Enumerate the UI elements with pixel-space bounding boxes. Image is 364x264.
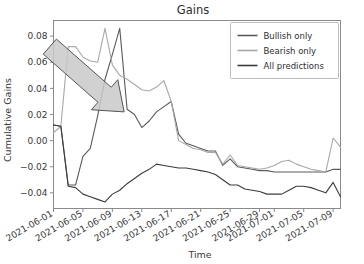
y-tick-label: −0.02 xyxy=(20,162,48,172)
y-tick-label: 0.02 xyxy=(27,110,47,120)
y-tick-label: 0.08 xyxy=(27,31,47,41)
y-axis-title: Cumulative Gains xyxy=(2,78,13,162)
legend-label-bearish-only[interactable]: Bearish only xyxy=(264,46,317,56)
y-tick-label: 0.06 xyxy=(27,57,47,67)
chart-title: Gains xyxy=(177,3,209,17)
gains-line-chart: Gains Cumulative Gains Time 0.080.060.04… xyxy=(0,0,364,264)
chart-legend: Bullish onlyBearish onlyAll predictions xyxy=(231,23,339,79)
x-axis-ticks: 2021-06-012021-06-052021-06-092021-06-13… xyxy=(4,208,334,243)
trend-arrow-icon xyxy=(43,39,124,112)
chart-annotations xyxy=(43,39,124,112)
y-tick-label: 0.04 xyxy=(27,84,47,94)
series-line-all-predictions xyxy=(54,125,341,202)
y-tick-label: −0.04 xyxy=(20,188,48,198)
legend-label-all-predictions[interactable]: All predictions xyxy=(264,61,325,71)
y-tick-label: 0.00 xyxy=(27,136,47,146)
legend-label-bullish-only[interactable]: Bullish only xyxy=(264,31,313,41)
chart-figure: Gains Cumulative Gains Time 0.080.060.04… xyxy=(0,0,364,264)
x-axis-title: Time xyxy=(187,249,211,260)
